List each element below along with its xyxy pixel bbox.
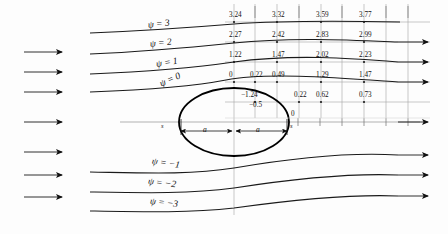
flow-field-diagram (0, 0, 448, 234)
stagnation-label-right: s (290, 122, 293, 129)
grid-value: 3.59 (316, 11, 329, 19)
upper-streamlines (90, 21, 400, 92)
grid-value: 3.77 (359, 11, 372, 19)
grid-value: 0.62 (316, 91, 329, 99)
stagnation-label-left: s (161, 122, 164, 129)
streamline-psi-minus-1 (90, 154, 398, 173)
grid-value: 1.47 (272, 51, 285, 59)
grid-value: 1.47 (359, 71, 372, 79)
grid-value: 0.73 (359, 91, 372, 99)
grid-value: 0.49 (272, 71, 285, 79)
grid-value: 0 (291, 110, 295, 118)
grid-value: 2.99 (359, 31, 372, 39)
grid-value: 3.32 (272, 11, 285, 19)
grid-value: 2.23 (359, 51, 372, 59)
dimension-label-a-left: a (203, 125, 207, 134)
grid-value: −1.24 (241, 91, 258, 99)
grid-value: 1.22 (229, 51, 242, 59)
figure-canvas: ψ = 3 ψ = 2 ψ = 1 ψ = 0 ψ = −1 ψ = −2 ψ … (0, 0, 448, 234)
grid-value: 2.27 (229, 31, 242, 39)
streamline-psi-1 (90, 57, 398, 74)
lower-streamlines (90, 154, 398, 212)
grid-value: 0.22 (250, 71, 263, 79)
streamline-psi-3 (90, 21, 400, 33)
inflow-arrows (24, 52, 62, 197)
streamline-psi-minus-2 (90, 175, 398, 193)
streamline-psi-0 (90, 76, 398, 92)
grid-value: 3.24 (229, 11, 242, 19)
grid-value: −0.5 (249, 101, 262, 109)
grid-value: 2.42 (272, 31, 285, 39)
grid-value: 0 (229, 71, 233, 79)
outflow-arrows (398, 42, 428, 196)
grid-value: 2.02 (316, 51, 329, 59)
streamline-psi-minus-3 (90, 196, 398, 212)
grid-value: 0.22 (294, 91, 307, 99)
dimension-label-a-right: a (256, 125, 260, 134)
streamline-psi-2 (90, 39, 398, 54)
grid-value: 1.29 (316, 71, 329, 79)
grid-value: 2.83 (316, 31, 329, 39)
center-axis (120, 118, 420, 126)
